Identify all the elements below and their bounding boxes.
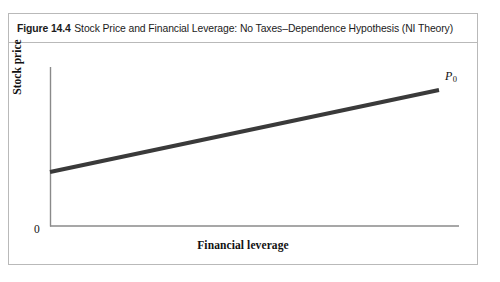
figure-caption-text: Stock Price and Financial Leverage: No T… — [74, 23, 453, 34]
figure-frame: Figure 14.4 Stock Price and Financial Le… — [8, 13, 478, 265]
curve-label-p0-subscript: 0 — [453, 74, 457, 84]
chart-svg — [9, 43, 479, 265]
chart-plot-area: Stock price Financial leverage 0 P0 — [9, 43, 477, 264]
stock-price-line — [50, 90, 439, 172]
curve-label-p0: P0 — [445, 69, 457, 84]
figure-caption: Figure 14.4 Stock Price and Financial Le… — [9, 14, 477, 43]
x-axis-label: Financial leverage — [9, 239, 477, 251]
figure-caption-number: Figure 14.4 — [17, 23, 71, 34]
origin-label: 0 — [34, 223, 40, 235]
y-axis-label: Stock price — [9, 7, 25, 127]
curve-label-p0-base: P — [445, 69, 452, 83]
